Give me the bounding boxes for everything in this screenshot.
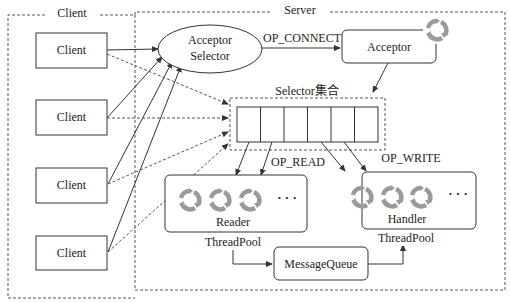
- handler-label: Handler: [378, 212, 436, 227]
- client-label-2: Client: [36, 110, 107, 125]
- acceptor-selector-line1: Acceptor: [170, 33, 250, 48]
- reader-to-queue-arrow: [233, 249, 272, 264]
- queue-to-handler-arrow: [368, 245, 403, 264]
- selector-set-label: Selector集合: [262, 81, 352, 99]
- handler-threadpool-label: ThreadPool: [370, 231, 442, 246]
- client-label-3: Client: [36, 178, 107, 193]
- op-read-arrows: [236, 142, 272, 175]
- reader-threadpool-label: ThreadPool: [198, 235, 268, 250]
- server-frame-label: Server: [272, 3, 328, 18]
- acceptor-label: Acceptor: [342, 40, 436, 55]
- reader-label: Reader: [203, 215, 263, 230]
- client-label-4: Client: [36, 246, 107, 261]
- acceptor-selector-line2: Selector: [170, 49, 250, 64]
- acceptor-to-selector-arrow: [373, 63, 388, 92]
- op-connect-label: OP_CONNECT: [262, 31, 342, 46]
- selector-array: [237, 107, 378, 142]
- reader-ellipsis: · · ·: [272, 190, 302, 206]
- handler-ellipsis: · · ·: [443, 186, 473, 202]
- client-label-1: Client: [36, 43, 107, 58]
- message-queue-label: MessageQueue: [274, 257, 368, 272]
- op-read-label: OP_READ: [268, 155, 328, 170]
- client-frame-label: Client: [46, 6, 98, 21]
- op-write-label: OP_WRITE: [376, 151, 446, 166]
